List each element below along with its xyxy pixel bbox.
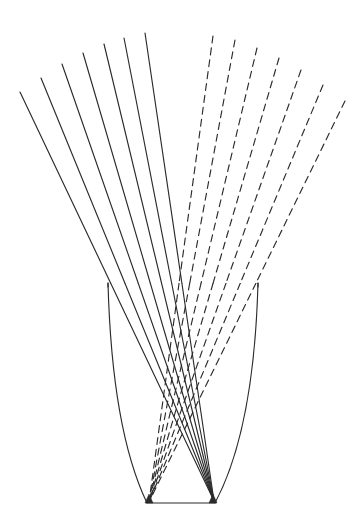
figure-root <box>0 0 362 520</box>
figure-background <box>0 0 362 520</box>
vessel-line-drawing <box>0 0 362 520</box>
